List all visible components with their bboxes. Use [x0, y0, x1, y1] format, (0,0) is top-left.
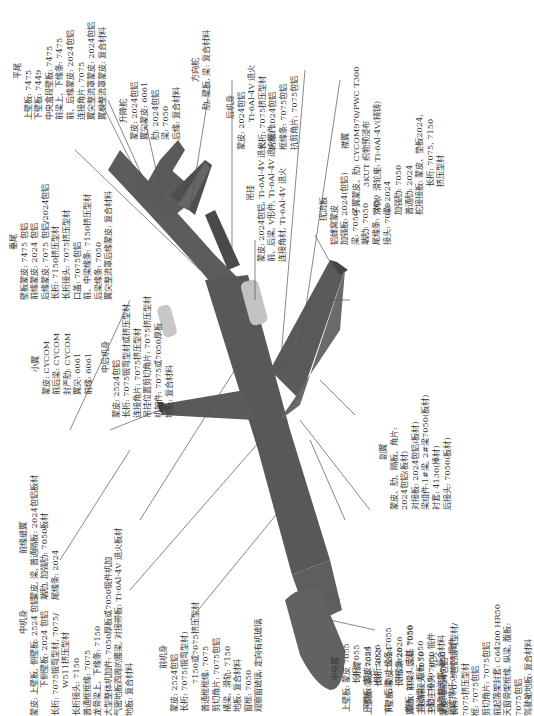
label-inner-wing: 副翼 蒙皮、肋、隔板、角片: 2024包铝(板材) 对接板: 2024包铝(板材… [378, 395, 452, 510]
label-spoiler: 扰流板 铝蜂窝蒙皮 加强板: 2024(包铝) 梁: 7050 端肋: 7050… [318, 172, 392, 245]
label-forward-fuselage: 前机身 蒙皮: 2524包铝 长桁: 7075(锻弯型材) 7150或7075挤… [158, 602, 264, 712]
label-winglet: 小翼 蒙皮: CYCOM 前后梁: CYCOM 封严肋: CYCOM 翼尖: 6… [30, 333, 94, 395]
label-nose-materials: 机头 蒙皮: 2524包铝 长桁: 7075包铝锻弯型材/ 7075挤压型材 框… [428, 604, 534, 716]
label-center-fuselage: 中机身 蒙皮: 上壁板, 侧壁板: 2524 包铝 下侧壁板: 2024 包铝 … [18, 528, 135, 716]
label-rudder: 方向舵 肋, 壁板, 梁: 复合材料 [190, 30, 211, 110]
aft-fuselage-shape [108, 150, 245, 300]
label-elevator: 升降舵 蒙皮: 2024包铝 翼尖蒙皮: 6061 肋: 2024包铝 梁: 7… [118, 82, 182, 140]
label-vertical-tail: 垂尾 壁板蒙皮: 7475 包铝 前缘蒙皮: 2024 包铝 后缘蒙皮: 707… [8, 184, 114, 300]
label-mid-aft-fuselage: 中后机身 蒙皮: 2524包铝 长桁: 7075锻弯型材或挤压型材 连接角片: … [100, 296, 174, 418]
part-title: 平尾 [12, 22, 23, 120]
label-pylon: 吊挂 蒙皮: 2024包铝, Ti-6Al-4V 退火 前、后梁, V形件, T… [245, 125, 287, 262]
label-horizontal-tail: 平尾 上壁板: 7475 下壁板: 7449 中央盒段壁板: 7475 前梁上、… [12, 22, 107, 120]
